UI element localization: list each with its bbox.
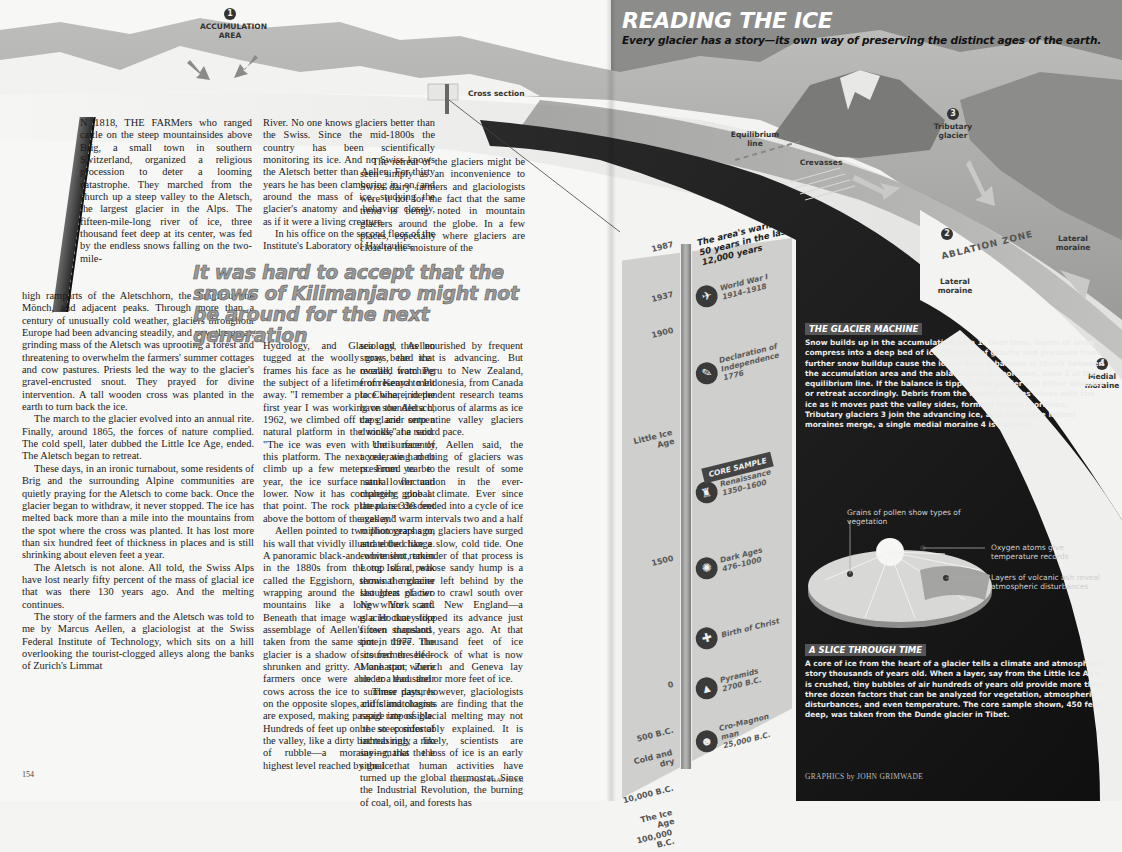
volcanic-ash-label: Layers of volcanic ash reveal atmospheri… [991, 573, 1101, 591]
cross-section-label: Cross section [468, 89, 548, 98]
glacier-machine-title: THE GLACIER MACHINE [805, 323, 922, 335]
oxygen-label: Oxygen atoms give temperature records [991, 543, 1101, 561]
article-column-3: sea and thus nourished by frequent snows… [360, 340, 523, 809]
article-column-3-top: The retreat of the glaciers might be see… [360, 156, 525, 255]
equilibrium-line-label: Equilibrium line [730, 130, 780, 148]
era-icon: ☻ [693, 728, 720, 755]
page-gutter [606, 0, 616, 801]
number-badge-2: 2 [941, 228, 953, 240]
feature-headline: READING THE ICE [622, 8, 833, 33]
feature-dek: Every glacier has a story—its own way of… [622, 34, 1101, 46]
slice-through-time-box: A SLICE THROUGH TIME A core of ice from … [805, 639, 1105, 721]
magazine-footer: Condé Nast TRAVELER [450, 776, 524, 784]
glacier-machine-text: Snow builds up in the accumulation area … [805, 338, 1105, 431]
tributary-glacier-label: 3 Tributary glacier [928, 108, 978, 140]
era-icon: ✎ [693, 360, 720, 387]
pollen-label: Grains of pollen show types of vegetatio… [847, 508, 967, 526]
accumulation-area-label: 1 ACCUMULATION AREA [200, 8, 260, 40]
graphics-credit: GRAPHICS by JOHN GRIMWADE [805, 772, 923, 781]
core-sample-rod [680, 244, 692, 769]
slice-through-time-text: A core of ice from the heart of a glacie… [805, 659, 1105, 721]
core-sample-timeline: The area's warmest 50 years in the last … [622, 238, 792, 798]
crevasses-label: Crevasses [796, 158, 846, 167]
glacier-machine-box: THE GLACIER MACHINE Snow builds up in th… [805, 318, 1105, 431]
lateral-moraine-right-label: Lateral moraine [1048, 234, 1098, 252]
article-column-1: high ramparts of the Aletschhorn, the Ju… [22, 290, 254, 673]
number-badge-3: 3 [947, 108, 959, 120]
page-number: 154 [22, 770, 34, 779]
article-column-1-top: N 1818, THE FARMers who ranged cattle on… [80, 117, 252, 265]
pull-quote: It was hard to accept that the snows of … [193, 262, 533, 346]
lateral-moraine-left-label: Lateral moraine [930, 277, 980, 295]
article-opening: N 1818, THE FARMers who ranged cattle on… [80, 117, 252, 265]
ablation-zone-badge: 2 [940, 228, 954, 242]
number-badge-1: 1 [224, 8, 236, 20]
ice-slice-diagram: Grains of pollen show types of vegetatio… [805, 500, 1115, 635]
slice-through-time-title: A SLICE THROUGH TIME [805, 644, 926, 656]
